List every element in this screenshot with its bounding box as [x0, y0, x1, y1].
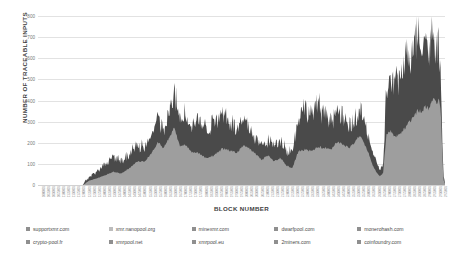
legend-item: minexmr.com [192, 222, 273, 235]
x-axis-tick-label: 1250001 [93, 186, 97, 197]
x-axis-tick-label: 1500001 [143, 186, 147, 197]
x-axis-tick-label: 2875001 [423, 186, 427, 197]
x-axis-tick-label: 2500001 [347, 186, 351, 197]
x-axis-tick-label: 2525001 [352, 186, 356, 197]
x-axis-tick-label: 1325001 [108, 186, 112, 197]
x-axis-tick-label: 1300001 [103, 186, 107, 197]
x-axis-tick-label: 2850001 [418, 186, 422, 197]
x-axis-tick-label: 2375001 [322, 186, 326, 197]
x-axis-tick-label: 1625001 [169, 186, 173, 197]
x-axis-tick-label: 2250001 [296, 186, 300, 197]
x-axis-tick-label: 2700001 [388, 186, 392, 197]
y-axis-tick-label: 800 [27, 14, 35, 19]
x-axis-tick-label: 1650001 [174, 186, 178, 197]
x-axis-tick-label: 1925001 [230, 186, 234, 197]
legend-item: xmr.nanopool.org [109, 222, 190, 235]
x-axis-tick-label: 1075001 [57, 186, 61, 197]
x-axis-tick-label: 1000001 [42, 186, 46, 197]
x-axis-tick-label: 1050001 [52, 186, 56, 197]
x-axis-tick-label: 1800001 [205, 186, 209, 197]
x-axis-tick-label: 1400001 [123, 186, 127, 197]
x-axis-tick-label: 1675001 [179, 186, 183, 197]
x-axis-tick-label: 2325001 [311, 186, 315, 197]
legend-swatch-icon [274, 240, 278, 244]
x-axis-tick-label: 1275001 [98, 186, 102, 197]
x-axis-tick-label: 1175001 [77, 186, 81, 197]
x-axis-tick-label: 2075001 [261, 186, 265, 197]
legend-item: coinfoundry.com [357, 235, 438, 248]
x-axis-tick-label: 2200001 [286, 186, 290, 197]
x-axis-tick-label: 2675001 [383, 186, 387, 197]
x-axis-tick-label: 2975001 [444, 186, 448, 197]
x-axis-tick-label: 2900001 [428, 186, 432, 197]
x-axis-tick-label: 1825001 [210, 186, 214, 197]
legend-swatch-icon [109, 240, 113, 244]
x-axis-tick-label: 2925001 [433, 186, 437, 197]
legend-label: coinfoundry.com [364, 239, 401, 245]
x-axis-tick-label: 1450001 [133, 186, 137, 197]
x-axis-tick-label: 2025001 [250, 186, 254, 197]
x-axis-tick-label: 2125001 [271, 186, 275, 197]
y-axis-title: NUMBER OF TRACEABLE INPUTS [21, 0, 28, 138]
legend-item: monerohash.com [357, 222, 438, 235]
legend-item: dwarfpool.com [274, 222, 355, 235]
x-axis-tick-label: 2625001 [372, 186, 376, 197]
x-axis-tick-label: 1150001 [72, 186, 76, 197]
x-axis-tick-label: 1575001 [159, 186, 163, 197]
legend-label: minexmr.com [199, 226, 229, 232]
x-axis-tick-label: 1350001 [113, 186, 117, 197]
legend-label: xmrpool.eu [199, 239, 224, 245]
legend-label: xmrpool.net [116, 239, 143, 245]
x-axis-tick-label: 2300001 [306, 186, 310, 197]
y-axis-tick-label: 300 [27, 119, 35, 124]
chart-container: NUMBER OF TRACEABLE INPUTS 0100200300400… [0, 0, 452, 261]
x-axis-tick-label: 2800001 [408, 186, 412, 197]
x-axis-tick-label: 2450001 [337, 186, 341, 197]
x-axis-tick-label: 2650001 [378, 186, 382, 197]
x-axis-tick-label: 1200001 [82, 186, 86, 197]
x-axis-tick-label: 1900001 [225, 186, 229, 197]
legend-label: supportxmr.com [33, 226, 69, 232]
x-axis-tick-label: 2225001 [291, 186, 295, 197]
legend-swatch-icon [274, 227, 278, 231]
y-axis-tick-label: 500 [27, 77, 35, 82]
y-axis-tick-label: 700 [27, 35, 35, 40]
legend-swatch-icon [109, 227, 113, 231]
x-axis-tick-label: 2575001 [362, 186, 366, 197]
x-axis-tick-label: 1525001 [149, 186, 153, 197]
x-axis-tick-label: 1225001 [88, 186, 92, 197]
x-axis-tick-label: 1375001 [118, 186, 122, 197]
x-axis-title: BLOCK NUMBER [38, 205, 445, 212]
y-axis-tick-label: 0 [32, 183, 35, 188]
legend-label: xmr.nanopool.org [116, 226, 155, 232]
legend-swatch-icon [192, 240, 196, 244]
x-axis-tick-label: 2600001 [367, 186, 371, 197]
legend-label: crypto-pool.fr [33, 239, 63, 245]
x-axis-tick-label: 2550001 [357, 186, 361, 197]
x-axis-tick-label: 1750001 [194, 186, 198, 197]
x-axis-tick-label: 1100001 [62, 186, 66, 197]
x-axis-tick-label: 2475001 [342, 186, 346, 197]
x-axis-tick-label: 2150001 [276, 186, 280, 197]
x-axis-tick-label: 1975001 [240, 186, 244, 197]
x-axis-tick-label: 2275001 [301, 186, 305, 197]
legend-item: 2miners.com [274, 235, 355, 248]
x-axis-tick-label: 1725001 [189, 186, 193, 197]
legend-label: dwarfpool.com [281, 226, 314, 232]
legend-label: 2miners.com [281, 239, 310, 245]
legend-item: xmrpool.eu [192, 235, 273, 248]
x-axis-tick-label: 2950001 [439, 186, 443, 197]
legend-swatch-icon [357, 227, 361, 231]
legend-item: crypto-pool.fr [26, 235, 107, 248]
stacked-area-series [38, 16, 445, 185]
x-axis-tick-label: 2000001 [245, 186, 249, 197]
legend-swatch-icon [26, 240, 30, 244]
legend-swatch-icon [192, 227, 196, 231]
y-axis-tick-label: 400 [27, 98, 35, 103]
x-axis-tick-label: 2750001 [398, 186, 402, 197]
x-axis-tick-label: 1425001 [128, 186, 132, 197]
y-axis-tick-label: 100 [27, 161, 35, 166]
x-axis-tick-label: 1125001 [67, 186, 71, 197]
x-axis-tick-label: 1475001 [138, 186, 142, 197]
x-axis-tick-label: 1025001 [47, 186, 51, 197]
